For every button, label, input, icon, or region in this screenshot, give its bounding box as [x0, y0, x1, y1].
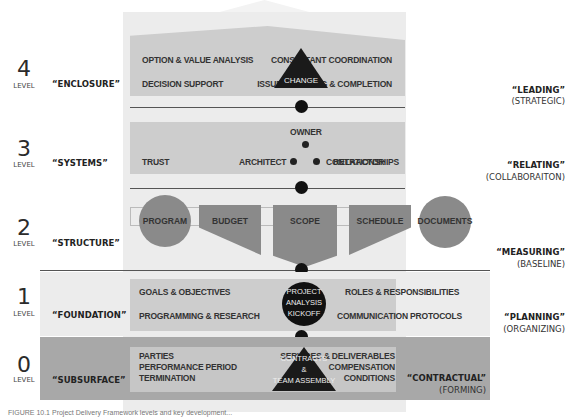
schedule-label: SCHEDULE [349, 216, 411, 226]
kickoff-line-1: PROJECT [280, 286, 328, 297]
scope-shape [273, 205, 337, 267]
contractor-node: CONTRACTOR [326, 157, 384, 167]
budget-label: BUDGET [199, 216, 261, 226]
level-4-number: 4 [4, 56, 44, 81]
kickoff-line-2: ANALYSIS [280, 297, 328, 308]
connector-dot [295, 181, 308, 194]
option-value-analysis: OPTION & VALUE ANALYSIS [142, 55, 253, 65]
level-1-stage: “FOUNDATION” [52, 310, 127, 320]
level-3-role: “RELATING” [507, 160, 565, 170]
level-3-stage: “SYSTEMS” [52, 158, 108, 168]
change-label: CHANGE [274, 76, 328, 85]
level-1-role: “PLANNING” [504, 312, 565, 322]
level-2-number: 2 [4, 215, 44, 240]
level-1-role-sub: (ORGANIZING) [503, 324, 565, 334]
performance-period: PERFORMANCE PERIOD [139, 362, 237, 373]
level-3-number: 3 [4, 136, 44, 161]
level-4-stage: “ENCLOSURE” [52, 79, 120, 89]
level-0-stage: “SUBSURFACE” [52, 375, 126, 385]
figure-caption: FIGURE 10.1 Project Delivery Framework l… [8, 409, 232, 416]
programming-research: PROGRAMMING & RESEARCH [139, 311, 260, 321]
level-2-divider [40, 270, 490, 271]
level-4-role-sub: (STRATEGIC) [511, 96, 565, 106]
contracts-line-3: TEAM ASSEMBLY [262, 375, 346, 386]
termination: TERMINATION [139, 373, 237, 384]
contracts-label: CONTRACTS & TEAM ASSEMBLY [262, 353, 346, 386]
kickoff-line-3: KICKOFF [280, 308, 328, 319]
level-0-number: 0 [4, 352, 44, 377]
level-0-role-sub: (FORMING) [439, 385, 486, 395]
architect-node: ARCHITECT [239, 157, 286, 167]
goals-objectives: GOALS & OBJECTIVES [139, 287, 230, 297]
kickoff-label: PROJECT ANALYSIS KICKOFF [280, 286, 328, 319]
contracts-line-2: & [262, 364, 346, 375]
scope-label: SCOPE [273, 216, 337, 226]
level-0-left-list: PARTIES PERFORMANCE PERIOD TERMINATION [139, 351, 237, 384]
level-3-label: LEVEL [4, 161, 44, 169]
level-0-label: LEVEL [4, 376, 44, 384]
trust: TRUST [142, 157, 169, 167]
connector-dot [295, 100, 308, 113]
program-label: PROGRAM [139, 216, 191, 226]
level-3-divider [130, 188, 405, 189]
level-2-label: LEVEL [4, 240, 44, 248]
contracts-line-1: CONTRACTS [262, 353, 346, 364]
parties: PARTIES [139, 351, 237, 362]
decision-support: DECISION SUPPORT [142, 79, 223, 89]
level-4-label: LEVEL [4, 82, 44, 90]
level-4-role: “LEADING” [512, 85, 565, 95]
level-4-divider [130, 107, 405, 108]
level-2-role-sub: (BASELINE) [517, 259, 565, 269]
level-2-role: “MEASURING” [496, 247, 565, 257]
level-0-role: “CONTRACTUAL” [407, 373, 486, 383]
roles-responsibilities: ROLES & RESPONSIBILITIES [345, 287, 459, 297]
level-1-number: 1 [4, 284, 44, 309]
consultant-coordination: CONSULTANT COORDINATION [271, 55, 392, 65]
level-2-stage: “STRUCTURE” [52, 238, 120, 248]
documents-label: DOCUMENTS [416, 216, 474, 226]
architect-dot [290, 158, 297, 165]
owner-dot [302, 141, 309, 148]
owner-node: OWNER [290, 127, 322, 137]
level-3-role-sub: (COLLABORAITON) [486, 172, 565, 182]
communication-protocols: COMMUNICATION PROTOCOLS [337, 311, 462, 321]
contractor-dot [313, 158, 320, 165]
level-1-label: LEVEL [4, 310, 44, 318]
